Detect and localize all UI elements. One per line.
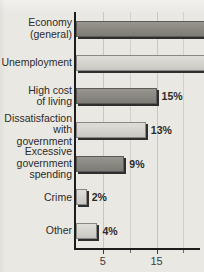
x-axis-line xyxy=(74,248,200,250)
bar-value-label: 9% xyxy=(129,158,144,170)
bar-0: 31% xyxy=(76,21,204,37)
bar-rect: 13% xyxy=(76,122,146,138)
category-label-4: Excessive government spending xyxy=(17,146,72,181)
bar-rect: 26% xyxy=(76,55,204,71)
bar-value-label: 15% xyxy=(162,90,183,102)
bar-1: 26% xyxy=(76,55,204,71)
category-label-3: Dissatisfaction with government xyxy=(4,113,72,148)
category-label-0: Economy (general) xyxy=(28,17,72,40)
bar-value-label: 4% xyxy=(102,225,117,237)
bar-6: 4% xyxy=(76,223,97,239)
category-label-1: Unemployment xyxy=(1,57,72,69)
bar-rect: 9% xyxy=(76,156,124,172)
bar-rect: 2% xyxy=(76,189,87,205)
bar-2: 15% xyxy=(76,88,157,104)
x-tick-5 xyxy=(103,250,104,254)
bar-rect: 31% xyxy=(76,21,204,37)
category-label-5: Crime xyxy=(44,192,72,204)
bar-value-label: 2% xyxy=(92,191,107,203)
bar-rect: 4% xyxy=(76,223,97,239)
category-label-2: High cost of living xyxy=(28,85,72,108)
x-minor-tick-10 xyxy=(130,250,131,253)
bar-chart: 31%26%15%13%9%2%4% Economy (general)Unem… xyxy=(0,0,204,272)
bar-value-label: 13% xyxy=(151,124,172,136)
x-minor-tick-20 xyxy=(183,250,184,253)
bar-5: 2% xyxy=(76,189,87,205)
x-tick-label-15: 15 xyxy=(150,255,162,267)
gridline-20 xyxy=(183,12,184,248)
x-tick-15 xyxy=(157,250,158,254)
bar-4: 9% xyxy=(76,156,124,172)
category-label-6: Other xyxy=(46,225,72,237)
bar-rect: 15% xyxy=(76,88,157,104)
x-tick-label-5: 5 xyxy=(100,255,106,267)
bar-3: 13% xyxy=(76,122,146,138)
